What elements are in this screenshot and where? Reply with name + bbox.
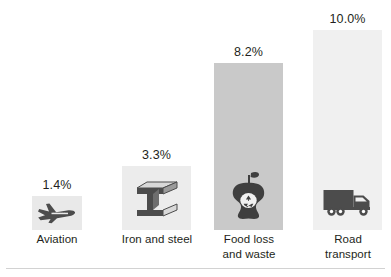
value-label-iron-and-steel: 3.3% [142, 148, 171, 162]
category-label-food-loss-and-waste: Food loss and waste [203, 232, 295, 261]
bar-group-road-transport: 10.0% [313, 0, 382, 230]
airplane-icon [37, 202, 77, 224]
bar-group-aviation: 1.4% [32, 0, 82, 230]
value-label-road-transport: 10.0% [330, 12, 366, 26]
bottom-divider [6, 268, 385, 269]
category-label-aviation: Aviation [12, 232, 102, 247]
bar-chart: 1.4% [0, 0, 391, 277]
bar-group-iron-and-steel: 3.3% [122, 0, 191, 230]
category-label-line: and waste [203, 247, 295, 262]
i-beam-icon [133, 178, 181, 222]
bar-road-transport[interactable] [313, 30, 382, 230]
category-axis: Aviation Iron and steel Food loss and wa… [0, 232, 391, 272]
category-label-line: transport [302, 247, 391, 262]
bar-iron-and-steel[interactable] [122, 166, 191, 230]
bar-food-loss-and-waste[interactable] [214, 63, 283, 230]
bar-aviation[interactable] [32, 196, 82, 230]
value-label-food-loss-and-waste: 8.2% [234, 45, 263, 59]
category-label-line: Food loss [203, 232, 295, 247]
category-label-line: Iron and steel [111, 232, 203, 247]
category-label-line: Road [302, 232, 391, 247]
apple-core-recycle-icon [226, 170, 272, 220]
category-label-road-transport: Road transport [302, 232, 391, 261]
value-label-aviation: 1.4% [43, 178, 72, 192]
category-label-line: Aviation [12, 232, 102, 247]
category-label-iron-and-steel: Iron and steel [111, 232, 203, 247]
truck-icon [322, 186, 374, 218]
plot-area: 1.4% [0, 0, 391, 230]
bar-group-food-loss-and-waste: 8.2% [214, 0, 283, 230]
